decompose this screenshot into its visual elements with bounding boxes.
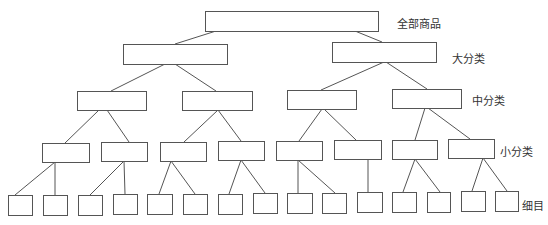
tree-node-level1 bbox=[124, 45, 228, 65]
tree-node-level4 bbox=[393, 193, 417, 213]
tree-edge bbox=[299, 109, 322, 141]
tree-edge bbox=[415, 159, 440, 192]
tree-edge bbox=[483, 158, 507, 191]
tree-node-level1 bbox=[333, 43, 437, 63]
tree-node-level4 bbox=[184, 195, 208, 215]
tree-edge bbox=[229, 160, 241, 194]
tree-node-level3 bbox=[161, 143, 207, 162]
tree-node-level3 bbox=[393, 141, 438, 160]
tree-node-level2 bbox=[393, 90, 462, 109]
tree-edge bbox=[111, 64, 165, 91]
category-tree-diagram: 全部商品 大分类 中分类 小分类 细目 bbox=[0, 0, 548, 225]
tree-edge bbox=[107, 110, 129, 142]
level-label-major-category: 大分类 bbox=[452, 50, 485, 66]
tree-node-level4 bbox=[219, 195, 243, 215]
tree-edge bbox=[472, 158, 483, 191]
tree-node-level2 bbox=[78, 92, 147, 111]
tree-edge bbox=[159, 161, 171, 194]
level-label-middle-category: 中分类 bbox=[472, 92, 505, 108]
level-label-all-products: 全部商品 bbox=[397, 15, 441, 31]
tree-edge bbox=[175, 64, 216, 91]
tree-edge bbox=[428, 108, 470, 139]
tree-graphic bbox=[0, 0, 548, 225]
tree-node-level4 bbox=[114, 195, 138, 215]
tree-edge bbox=[124, 161, 125, 194]
tree-node-level2 bbox=[288, 91, 357, 110]
tree-edge bbox=[218, 110, 241, 141]
tree-node-level0 bbox=[206, 12, 379, 32]
tree-node-level4 bbox=[254, 194, 278, 214]
tree-node-level3 bbox=[43, 144, 90, 163]
tree-edge bbox=[403, 159, 415, 192]
tree-edge bbox=[355, 31, 382, 42]
tree-edge bbox=[415, 108, 425, 140]
tree-node-level4 bbox=[358, 193, 383, 213]
tree-node-level3 bbox=[102, 143, 148, 162]
tree-node-level4 bbox=[462, 192, 486, 212]
tree-node-level3 bbox=[277, 142, 323, 161]
tree-node-level3 bbox=[335, 141, 382, 160]
level-label-item-detail: 细目 bbox=[522, 197, 544, 213]
tree-node-level4 bbox=[9, 196, 33, 216]
tree-edge bbox=[241, 160, 265, 193]
tree-edge bbox=[171, 161, 195, 194]
tree-edge bbox=[175, 31, 216, 44]
tree-node-level4 bbox=[44, 196, 68, 216]
tree-node-level4 bbox=[148, 195, 173, 215]
tree-edge bbox=[386, 62, 427, 89]
tree-node-level4 bbox=[496, 192, 519, 212]
tree-edge bbox=[324, 109, 356, 140]
tree-node-level4 bbox=[323, 194, 347, 214]
tree-edge bbox=[15, 162, 55, 195]
tree-edge bbox=[184, 110, 218, 142]
level-label-minor-category: 小分类 bbox=[500, 143, 533, 159]
tree-node-level4 bbox=[79, 196, 103, 216]
tree-edge bbox=[298, 160, 335, 193]
tree-node-level3 bbox=[219, 142, 265, 161]
tree-node-level3 bbox=[449, 140, 495, 159]
tree-node-level4 bbox=[288, 194, 313, 214]
tree-edge bbox=[65, 110, 99, 143]
tree-edge bbox=[90, 161, 124, 195]
tree-node-level2 bbox=[183, 92, 253, 111]
tree-edge bbox=[321, 62, 384, 90]
tree-node-level4 bbox=[428, 193, 451, 213]
